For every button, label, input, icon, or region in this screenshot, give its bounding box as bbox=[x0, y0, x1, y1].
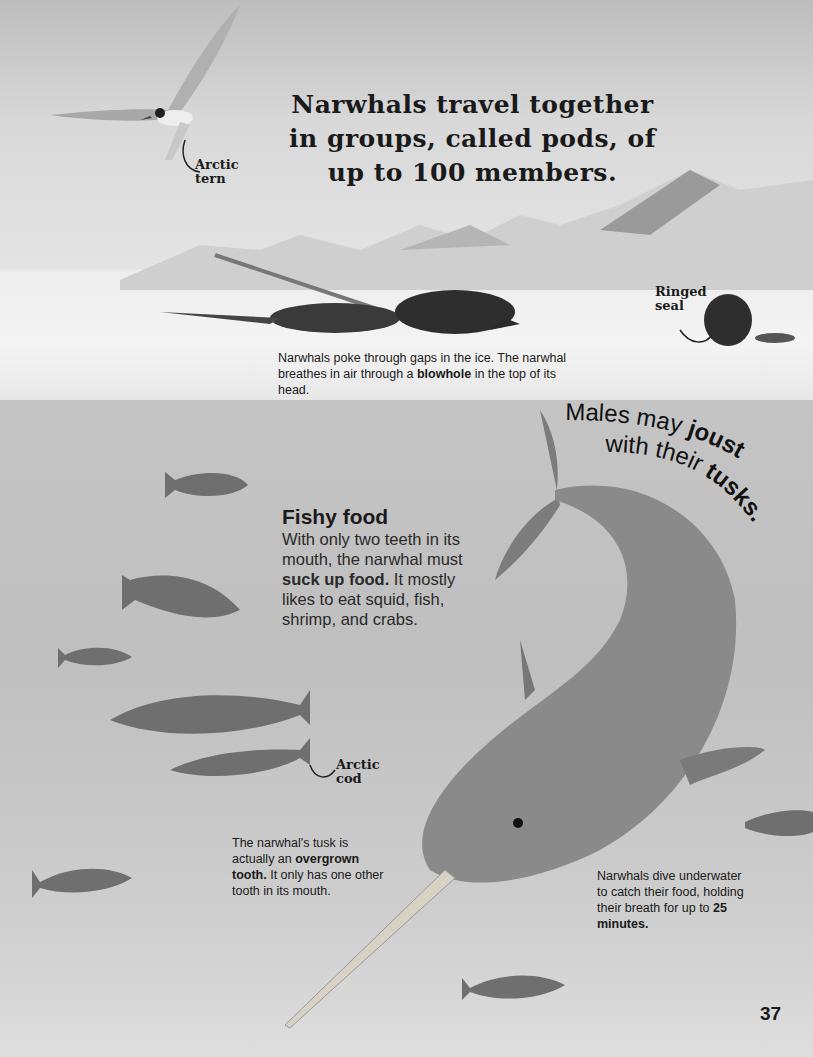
ringed-seal-label-line1: Ringed bbox=[655, 285, 707, 299]
ice-caption: Narwhals poke through gaps in the ice. T… bbox=[278, 350, 568, 398]
ringed-seal-label: Ringed seal bbox=[655, 285, 707, 313]
joust-curved-text: Males may joust with their tusks. bbox=[545, 400, 813, 560]
arctic-cod-label-line1: Arctic bbox=[336, 758, 380, 772]
arctic-tern-label-line2: tern bbox=[195, 172, 239, 186]
fishy-food-paragraph: With only two teeth in its mouth, the na… bbox=[282, 529, 492, 629]
fishy-food-heading: Fishy food bbox=[282, 505, 492, 529]
ringed-seal-illustration bbox=[704, 294, 795, 346]
headline: Narwhals travel together in groups, call… bbox=[280, 88, 665, 190]
dive-caption: Narwhals dive underwater to catch their … bbox=[597, 868, 747, 932]
tusk-caption: The narwhal's tusk is actually an overgr… bbox=[232, 835, 392, 899]
ringed-seal-label-line2: seal bbox=[655, 299, 707, 313]
joust-line2-bold: tusks. bbox=[701, 457, 771, 526]
arctic-tern-illustration bbox=[50, 5, 240, 160]
page-number: 37 bbox=[760, 1003, 781, 1025]
fishy-food-section: Fishy food With only two teeth in its mo… bbox=[282, 505, 492, 629]
arctic-cod-label: Arctic cod bbox=[336, 758, 380, 786]
arctic-tern-label: Arctic tern bbox=[195, 158, 239, 186]
cod-arrow-icon bbox=[310, 765, 335, 777]
ice-caption-bold: blowhole bbox=[417, 367, 471, 381]
fishy-food-text: With only two teeth in its mouth, the na… bbox=[282, 530, 463, 568]
arctic-tern-label-line1: Arctic bbox=[195, 158, 239, 172]
fishy-food-bold: suck up food. bbox=[282, 570, 389, 588]
arctic-cod-label-line2: cod bbox=[336, 772, 380, 786]
